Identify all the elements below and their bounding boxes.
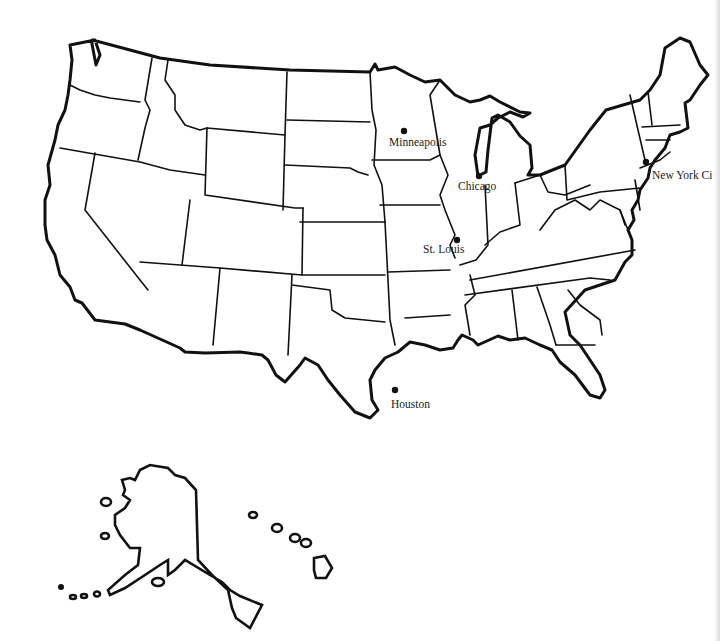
hawaii-islands	[249, 512, 332, 578]
us-outline-map	[0, 0, 720, 641]
city-label-minneapolis: Minneapolis	[389, 137, 447, 149]
city-label-new-york: New York Ci	[652, 170, 712, 182]
contiguous-us-outline	[45, 38, 708, 418]
city-label-chicago: Chicago	[458, 181, 496, 193]
alaska-outline	[108, 465, 262, 628]
alaska-island	[101, 498, 111, 506]
alaska-island	[101, 533, 109, 539]
aleutian-island	[70, 595, 76, 599]
aleutian-island	[58, 584, 64, 590]
new-york-marker	[643, 159, 649, 165]
houston-marker	[392, 387, 398, 393]
city-label-houston: Houston	[391, 399, 430, 411]
minneapolis-marker	[401, 128, 407, 134]
aleutian-island	[94, 592, 100, 597]
page-edge	[714, 0, 720, 641]
chicago-marker	[476, 173, 482, 179]
aleutian-island	[81, 594, 87, 598]
alaska-island	[152, 578, 164, 586]
city-label-st-louis: St. Louis	[423, 244, 465, 256]
